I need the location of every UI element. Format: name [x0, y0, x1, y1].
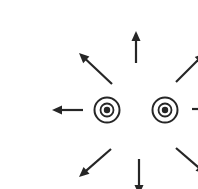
- arrow-up: [132, 31, 141, 63]
- arrow-upper-left-shaft: [85, 59, 112, 84]
- arrow-lower-left: [79, 149, 111, 177]
- arrow-right: [192, 105, 198, 114]
- arrow-lower-right-shaft: [176, 148, 198, 168]
- arrow-left-head: [52, 106, 62, 115]
- arrow-down-head: [135, 185, 144, 189]
- arrow-up-head: [132, 31, 141, 41]
- arrow-left: [52, 106, 83, 115]
- arrow-lower-right: [176, 148, 198, 174]
- diagram-canvas: [40, 16, 198, 189]
- arrow-down: [135, 159, 144, 189]
- circled-dot-left: [95, 98, 120, 123]
- arrow-upper-right-shaft: [176, 59, 198, 82]
- arrow-lower-left-shaft: [85, 149, 111, 171]
- arrow-upper-right: [176, 53, 198, 82]
- radiating-arrows-diagram: [40, 16, 198, 189]
- arrow-upper-left: [79, 53, 112, 84]
- circled-dot-right: [153, 98, 178, 123]
- circled-dot-right-center-dot: [162, 107, 168, 113]
- circled-dot-left-center-dot: [104, 107, 110, 113]
